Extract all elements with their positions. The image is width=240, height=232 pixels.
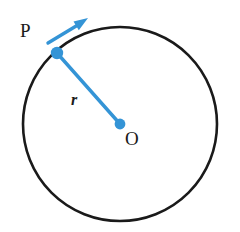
point-o-label: O <box>125 129 139 148</box>
point-p-label: P <box>20 21 31 40</box>
figure-canvas <box>0 0 240 232</box>
circular-motion-figure: P O r <box>0 0 240 232</box>
point-p-dot <box>51 47 63 59</box>
radius-line <box>57 53 120 124</box>
tangent-arrow-head <box>74 18 89 30</box>
point-o-dot <box>115 119 126 130</box>
tangent-arrow <box>48 18 88 43</box>
radius-label: r <box>71 92 77 108</box>
tangent-arrow-shaft <box>48 24 80 43</box>
